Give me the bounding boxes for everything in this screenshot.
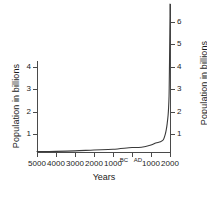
x-tick xyxy=(94,153,95,157)
x-tick xyxy=(151,153,152,157)
left-y-tick xyxy=(33,67,37,68)
right-y-tick xyxy=(171,44,175,45)
right-y-tick-label: 5 xyxy=(177,40,187,48)
right-y-tick xyxy=(171,112,175,113)
left-y-axis-line xyxy=(37,61,38,153)
left-y-axis-title: Population in billions xyxy=(11,51,21,161)
right-y-axis-title: Population in billions xyxy=(199,13,207,153)
x-tick xyxy=(113,153,114,157)
right-y-tick xyxy=(171,22,175,23)
left-y-tick-label: 2 xyxy=(21,108,31,116)
left-y-tick-label: 1 xyxy=(21,130,31,138)
left-y-tick-label: 3 xyxy=(21,85,31,93)
right-y-tick xyxy=(171,67,175,68)
x-era-label: BC xyxy=(117,157,131,164)
x-tick xyxy=(132,153,133,157)
left-y-tick xyxy=(33,89,37,90)
right-y-tick-label: 2 xyxy=(177,108,187,116)
right-y-axis-line xyxy=(170,4,171,153)
left-y-tick xyxy=(33,134,37,135)
x-axis-title: Years xyxy=(37,172,171,182)
right-y-tick-label: 4 xyxy=(177,63,187,71)
left-y-tick-label: 4 xyxy=(21,63,31,71)
x-tick xyxy=(170,153,171,157)
right-y-tick-label: 6 xyxy=(177,18,187,26)
x-tick xyxy=(37,153,38,157)
left-y-tick xyxy=(33,112,37,113)
right-y-tick xyxy=(171,89,175,90)
x-tick xyxy=(56,153,57,157)
x-tick-label: 2000 xyxy=(157,159,183,168)
right-y-tick-label: 3 xyxy=(177,85,187,93)
right-y-tick xyxy=(171,134,175,135)
population-growth-chart: 432165432150004000300020001000BCAD100020… xyxy=(0,0,207,197)
x-tick xyxy=(75,153,76,157)
right-y-tick-label: 1 xyxy=(177,130,187,138)
